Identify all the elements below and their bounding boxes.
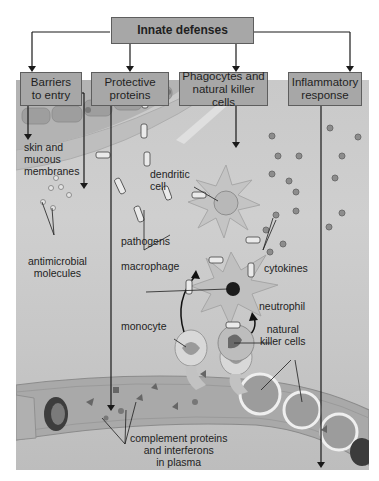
label-dendritic-cell: dendritic cell [150, 168, 190, 192]
label-antimicrobial: antimicrobial molecules [28, 255, 87, 279]
label-natural-killer: natural killer cells [260, 323, 306, 347]
category-protective-proteins: Protective proteins [91, 72, 169, 106]
category-phagocytes: Phagocytes and natural killer cells [179, 72, 268, 106]
label-skin-mucous: skin and mucous membranes [24, 141, 79, 177]
label-macrophage: macrophage [121, 260, 179, 272]
innate-defenses-title: Innate defenses [111, 17, 254, 44]
category-barriers: Barriers to entry [20, 72, 82, 106]
category-inflammatory: Inflammatory response [288, 72, 362, 106]
label-neutrophil: neutrophil [259, 300, 305, 312]
label-pathogens: pathogens [121, 235, 170, 247]
label-complement: complement proteins and interferons in p… [130, 432, 227, 468]
label-monocyte: monocyte [121, 320, 167, 332]
label-cytokines: cytokines [264, 262, 308, 274]
